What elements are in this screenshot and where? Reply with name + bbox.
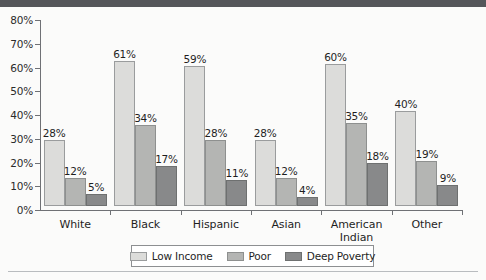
x-axis-category-label: Asian bbox=[251, 218, 321, 231]
y-axis-tick-label-text: 60% bbox=[1, 62, 33, 74]
bar-value-label: 9% bbox=[440, 172, 456, 184]
x-axis-tick bbox=[392, 210, 393, 215]
x-axis-category-label: Hispanic bbox=[181, 218, 251, 231]
y-axis-tick-label-text: 40% bbox=[1, 109, 33, 121]
bar: 40% bbox=[395, 111, 416, 206]
top-band-decoration bbox=[0, 0, 486, 7]
bar: 59% bbox=[184, 66, 205, 206]
category-label-line: Indian bbox=[321, 231, 391, 244]
x-axis-tick bbox=[251, 210, 252, 215]
bar: 12% bbox=[65, 178, 86, 207]
category-label-line: American bbox=[321, 218, 391, 231]
bar-value-label: 61% bbox=[113, 48, 136, 60]
chart-legend: Low Income Poor Deep Poverty bbox=[131, 245, 374, 267]
bar-value-label: 12% bbox=[275, 165, 298, 177]
bar: 12% bbox=[276, 178, 297, 207]
y-axis-tick-label-text: 70% bbox=[1, 38, 33, 50]
y-axis-tick-label: 50% bbox=[0, 85, 33, 97]
bar-value-label: 35% bbox=[345, 110, 368, 122]
bar-group-bars: 61%34%17% bbox=[114, 16, 177, 206]
x-axis-tick bbox=[321, 210, 322, 215]
y-axis-tick-label: 60% bbox=[0, 62, 33, 74]
bar-value-label: 5% bbox=[88, 181, 104, 193]
bar-group: 40%19%9% bbox=[395, 16, 458, 206]
y-axis-line bbox=[40, 20, 41, 210]
y-axis-tick-label-text: 20% bbox=[1, 157, 33, 169]
bar-group-bars: 40%19%9% bbox=[395, 16, 458, 206]
legend-item-poor: Poor bbox=[227, 250, 271, 262]
y-axis-tick-label: 10% bbox=[0, 180, 33, 192]
bar-value-label: 60% bbox=[324, 51, 347, 63]
x-axis-category-label: White bbox=[40, 218, 110, 231]
y-axis-tick bbox=[35, 20, 40, 21]
bar: 11% bbox=[226, 180, 247, 206]
legend-swatch-deep-poverty bbox=[285, 252, 302, 261]
bar: 28% bbox=[205, 140, 226, 207]
bar-group: 61%34%17% bbox=[114, 16, 177, 206]
y-axis-tick bbox=[35, 68, 40, 69]
plot-area: 80%70%60%50%40%30%20%10%0% 28%12%5%61%34… bbox=[0, 10, 486, 206]
bar-group-bars: 60%35%18% bbox=[325, 16, 388, 206]
bar-group-bars: 28%12%4% bbox=[255, 16, 318, 206]
y-axis-tick-label: 0% bbox=[0, 204, 33, 216]
bar: 28% bbox=[44, 140, 65, 207]
bar-value-label: 59% bbox=[183, 53, 206, 65]
y-axis-tick-label-text: 30% bbox=[1, 133, 33, 145]
y-axis-tick bbox=[35, 210, 40, 211]
category-label-line: Black bbox=[110, 218, 180, 231]
bar-group-bars: 28%12%5% bbox=[44, 16, 107, 206]
y-axis-tick-label-text: 0% bbox=[1, 204, 33, 216]
bar: 5% bbox=[86, 194, 107, 206]
y-axis-tick-label: 30% bbox=[0, 133, 33, 145]
bar: 61% bbox=[114, 61, 135, 206]
x-axis-tick bbox=[462, 210, 463, 215]
y-axis-tick-label: 70% bbox=[0, 38, 33, 50]
bar-value-label: 28% bbox=[254, 127, 277, 139]
bar: 19% bbox=[416, 161, 437, 206]
bar-value-label: 12% bbox=[64, 165, 87, 177]
legend-swatch-low-income bbox=[130, 252, 147, 261]
y-axis-tick-label: 80% bbox=[0, 14, 33, 26]
category-label-line: White bbox=[40, 218, 110, 231]
bar-group: 60%35%18% bbox=[325, 16, 388, 206]
bar: 9% bbox=[437, 185, 458, 206]
y-axis-tick bbox=[35, 44, 40, 45]
bar-group: 28%12%4% bbox=[255, 16, 318, 206]
legend-label-deep-poverty: Deep Poverty bbox=[307, 250, 375, 262]
bar-value-label: 4% bbox=[299, 184, 315, 196]
bar-value-label: 18% bbox=[366, 150, 389, 162]
legend-label-poor: Poor bbox=[249, 250, 271, 262]
bar: 18% bbox=[367, 163, 388, 206]
category-label-line: Hispanic bbox=[181, 218, 251, 231]
category-label-line: Asian bbox=[251, 218, 321, 231]
chart-figure: 80%70%60%50%40%30%20%10%0% 28%12%5%61%34… bbox=[0, 0, 486, 280]
bar-value-label: 11% bbox=[225, 167, 248, 179]
bar: 4% bbox=[297, 197, 318, 207]
x-axis-category-label: Other bbox=[392, 218, 462, 231]
legend-swatch-poor bbox=[227, 252, 244, 261]
y-axis-tick-label: 20% bbox=[0, 157, 33, 169]
bar: 28% bbox=[255, 140, 276, 207]
x-axis-tick bbox=[181, 210, 182, 215]
x-axis-category-label: AmericanIndian bbox=[321, 218, 391, 244]
bar-group: 59%28%11% bbox=[184, 16, 247, 206]
bar-group: 28%12%5% bbox=[44, 16, 107, 206]
bar: 35% bbox=[346, 123, 367, 206]
bar-group-bars: 59%28%11% bbox=[184, 16, 247, 206]
legend-item-low-income: Low Income bbox=[130, 250, 213, 262]
y-axis-tick bbox=[35, 163, 40, 164]
bar: 17% bbox=[156, 166, 177, 206]
bar-value-label: 28% bbox=[204, 127, 227, 139]
y-axis-tick bbox=[35, 139, 40, 140]
bar-value-label: 28% bbox=[43, 127, 66, 139]
category-label-line: Other bbox=[392, 218, 462, 231]
bar: 60% bbox=[325, 64, 346, 207]
bar-value-label: 34% bbox=[134, 112, 157, 124]
y-axis-tick bbox=[35, 186, 40, 187]
y-axis-tick bbox=[35, 115, 40, 116]
legend-label-low-income: Low Income bbox=[152, 250, 213, 262]
bottom-rule-decoration bbox=[8, 271, 478, 272]
y-axis-tick-label-text: 50% bbox=[1, 85, 33, 97]
x-axis-tick bbox=[110, 210, 111, 215]
y-axis-tick-label-text: 10% bbox=[1, 180, 33, 192]
